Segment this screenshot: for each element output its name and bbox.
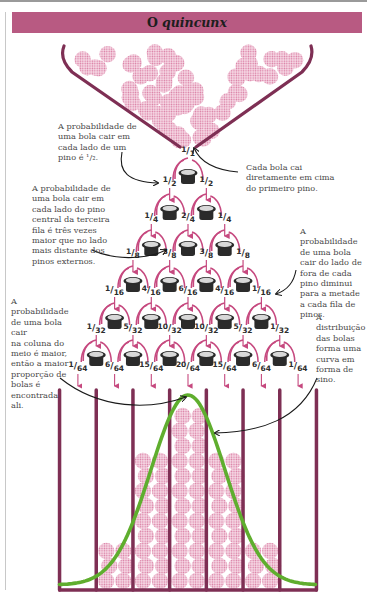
annotation-line: distribuição <box>316 322 366 332</box>
annotation-line: A probabilidade <box>11 296 77 317</box>
ball-icon <box>171 513 187 529</box>
ball-icon <box>152 483 168 499</box>
pin-icon <box>197 205 216 220</box>
ball-icon <box>227 69 244 86</box>
probability-label: 6/64 <box>105 360 124 374</box>
ball-icon <box>196 109 213 126</box>
ball-icon <box>135 453 151 469</box>
ball-icon <box>159 64 176 81</box>
annotation-line: do primeiro pino. <box>246 183 356 193</box>
annotation-line: uma bola cair em <box>32 193 124 203</box>
annotation-line: Cada bola cai <box>246 162 356 172</box>
probability-label: 6/16 <box>179 284 198 298</box>
ball-icon <box>242 65 259 82</box>
ball-icon <box>262 543 278 559</box>
ball-icon <box>147 50 164 67</box>
annotation-line: diretamente em cima <box>246 172 356 182</box>
annotation-line: de uma bola cair <box>11 317 77 338</box>
ball-icon <box>208 573 224 589</box>
ball-icon <box>211 498 227 514</box>
annotation-line: forma uma <box>316 343 366 353</box>
annotation-line: a cada fila de <box>300 299 366 309</box>
ball-icon <box>220 93 237 110</box>
ball-icon <box>188 513 204 529</box>
annotation-halves-outside: A probabilidade de uma bola cair do lado… <box>300 226 366 320</box>
ball-icon <box>171 573 187 589</box>
probability-label: 4/16 <box>215 284 234 298</box>
annotation-line: encontrada <box>11 390 77 400</box>
annotation-middle-column: A probabilidade de uma bola cair na colu… <box>11 296 77 410</box>
annotation-line: das bolas <box>316 333 366 343</box>
ball-icon <box>287 52 304 69</box>
ball-icon <box>174 468 190 484</box>
ball-icon <box>138 528 154 544</box>
pin-icon <box>105 314 124 329</box>
ball-icon <box>211 558 227 574</box>
annotation-line: cada lado do pino <box>32 204 124 214</box>
annotation-line: ali. <box>11 400 77 410</box>
probability-label: 10/32 <box>194 322 218 336</box>
ball-icon <box>135 573 151 589</box>
ball-icon <box>211 528 227 544</box>
probability-label: 5/32 <box>234 322 253 336</box>
annotation-line: para a metade <box>300 288 366 298</box>
annotation-line: cair do lado de <box>300 257 366 267</box>
annotation-line: A probabilidade de <box>58 121 150 131</box>
annotation-first-pin: Cada bola cai diretamente em cima do pri… <box>246 162 356 193</box>
ball-icon <box>262 68 279 85</box>
ball-icon <box>188 423 204 439</box>
annotation-line: pinos externos. <box>32 256 124 266</box>
probability-label: 15/64 <box>139 360 163 374</box>
annotation-three-times: A probabilidade de uma bola cair em cada… <box>32 183 124 266</box>
arrow-icon <box>60 378 186 405</box>
annotation-half-each-side: A probabilidade de uma bola cair em cada… <box>58 121 150 163</box>
probability-label: 1/32 <box>87 322 106 336</box>
ball-icon <box>98 543 114 559</box>
pin-icon <box>197 277 216 292</box>
annotation-line: na coluna do <box>11 338 77 348</box>
annotation-line: central da terceira <box>32 214 124 224</box>
ball-icon <box>225 453 241 469</box>
annotation-line: forma de <box>316 364 366 374</box>
annotation-line: curva em <box>316 354 366 364</box>
bin-balls <box>98 408 281 589</box>
ball-icon <box>240 45 257 62</box>
ball-icon <box>225 543 241 559</box>
ball-icon <box>171 483 187 499</box>
probability-label: 1/4 <box>218 211 232 225</box>
ball-icon <box>121 81 138 98</box>
probability-label: 10/32 <box>158 322 182 336</box>
pin-icon <box>160 205 179 220</box>
annotation-line: pino diminui <box>300 278 366 288</box>
ball-icon <box>188 483 204 499</box>
ball-icon <box>174 558 190 574</box>
annotation-line: fora de cada <box>300 268 366 278</box>
ball-icon <box>208 483 224 499</box>
pin-icon <box>270 351 289 366</box>
pin-icon <box>87 351 106 366</box>
ball-icon <box>208 513 224 529</box>
probability-label: 15/64 <box>213 360 237 374</box>
annotation-line: proporção de <box>11 369 77 379</box>
annotation-line: A probabilidade de <box>32 183 124 193</box>
ball-icon <box>138 101 155 118</box>
probability-label: 6/64 <box>252 360 271 374</box>
probability-label: 5/32 <box>123 322 142 336</box>
ball-icon <box>174 528 190 544</box>
annotation-line: cada lado de um <box>58 142 150 152</box>
ball-icon <box>152 573 168 589</box>
probability-label: 20/64 <box>176 360 200 374</box>
annotation-line: maior que no lado <box>32 235 124 245</box>
ball-icon <box>178 69 195 86</box>
probability-label: 1/2 <box>199 175 213 189</box>
pin-icon <box>234 277 253 292</box>
ball-icon <box>152 543 168 559</box>
annotation-line: sino. <box>316 374 366 384</box>
ball-icon <box>171 543 187 559</box>
ball-icon <box>174 438 190 454</box>
ball-icon <box>174 498 190 514</box>
annotation-line: bolas é <box>11 379 77 389</box>
pin-icon <box>123 277 142 292</box>
ball-icon <box>188 453 204 469</box>
pin-icon <box>179 241 198 256</box>
